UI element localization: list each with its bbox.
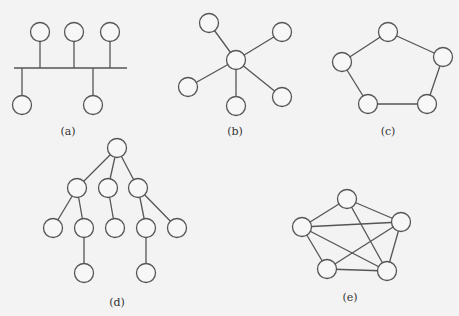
node-circle	[137, 264, 156, 283]
node-circle	[13, 96, 32, 115]
node-circle	[31, 23, 50, 42]
node-circle	[434, 48, 453, 67]
node-circle	[227, 97, 246, 116]
node-circle	[68, 179, 87, 198]
node-circle	[99, 179, 118, 198]
node-circle	[379, 23, 398, 42]
node-circle	[65, 23, 84, 42]
label-e: (e)	[342, 291, 357, 304]
node-circle	[137, 219, 156, 238]
label-c: (c)	[381, 125, 396, 138]
node-circle	[273, 23, 292, 42]
node-circle	[84, 96, 103, 115]
node-circle	[200, 14, 219, 33]
node-circle	[318, 260, 337, 279]
node-circle	[378, 262, 397, 281]
node-circle	[293, 218, 312, 237]
node-circle	[108, 139, 127, 158]
node-circle	[179, 78, 198, 97]
label-d: (d)	[109, 296, 125, 309]
node-circle	[168, 219, 187, 238]
node-circle	[101, 23, 120, 42]
node-circle	[106, 219, 125, 238]
label-a: (a)	[60, 125, 75, 138]
node-circle	[75, 264, 94, 283]
network-topology-figure: (a) (b) (c) (d) (e)	[0, 0, 459, 316]
node-circle	[273, 88, 292, 107]
node-circle	[333, 53, 352, 72]
node-circle	[75, 219, 94, 238]
node-circle	[338, 190, 357, 209]
node-circle	[44, 219, 63, 238]
node-circle	[129, 179, 148, 198]
node-circle	[392, 213, 411, 232]
label-b: (b)	[227, 125, 243, 138]
node-circle	[418, 95, 437, 114]
node-circle	[359, 95, 378, 114]
node-circle	[227, 51, 246, 70]
